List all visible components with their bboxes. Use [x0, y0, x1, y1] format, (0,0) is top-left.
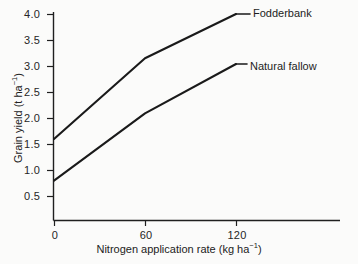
x-axis-title-exponent: −1 [249, 241, 258, 250]
x-axis-title-tail: ) [258, 243, 262, 255]
y-axis-title-main: Grain yield (t ha [12, 85, 24, 163]
y-axis-title: Grain yield (t ha−1) [12, 43, 24, 193]
y-axis-title-exponent: −1 [10, 77, 19, 86]
series-line-natural-fallow [54, 64, 236, 181]
x-tick-label-60: 60 [126, 229, 166, 241]
series-label-natural-fallow: Natural fallow [250, 60, 317, 72]
x-axis-title: Nitrogen application rate (kg ha−1) [0, 243, 358, 255]
x-tick-label-0: 0 [35, 229, 75, 241]
plot-canvas [0, 0, 358, 264]
y-axis-title-tail: ) [12, 73, 24, 77]
series-label-fodderbank: Fodderbank [253, 7, 312, 19]
x-tick-marks [55, 221, 237, 227]
y-tick-marks [47, 15, 54, 197]
series-line-fodderbank [54, 14, 236, 139]
y-tick-label-4-0: 4.0 [10, 8, 40, 20]
x-tick-label-120: 120 [217, 229, 257, 241]
x-axis-title-main: Nitrogen application rate (kg ha [96, 243, 249, 255]
grain-yield-line-chart: 4.0 3.5 3.0 2.5 2.0 1.5 1.0 0.5 0 60 120… [0, 0, 358, 264]
